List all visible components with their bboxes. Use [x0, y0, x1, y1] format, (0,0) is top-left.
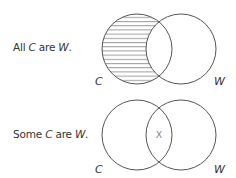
label-c: C	[95, 163, 103, 176]
venn-diagrams: C W X C W	[0, 0, 236, 178]
label-c: C	[95, 75, 103, 88]
venn-some-c-are-w: X C W	[95, 100, 226, 176]
label-w: W	[214, 163, 226, 176]
existence-marker-x: X	[156, 129, 163, 140]
label-w: W	[214, 75, 226, 88]
venn-all-c-are-w: C W	[95, 12, 226, 88]
hatched-region-c-not-w	[100, 12, 180, 87]
